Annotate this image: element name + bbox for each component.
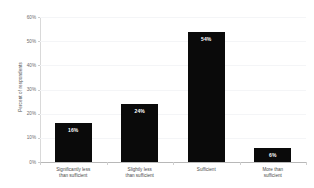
bar-value-label: 24%	[121, 108, 158, 114]
x-axis-tick-mark	[306, 162, 307, 165]
y-axis-tick-label: 60%	[18, 15, 36, 20]
y-axis-tick-label: 0%	[18, 160, 36, 165]
plot-area: 16%24%54%6%	[40, 17, 306, 162]
gridline	[40, 17, 306, 18]
y-axis-tick-label: 40%	[18, 63, 36, 68]
x-axis-tick-mark	[40, 162, 41, 165]
y-axis-tick-mark	[38, 90, 40, 91]
bar-value-label: 16%	[55, 127, 92, 133]
y-axis-tick-mark	[38, 138, 40, 139]
y-axis-tick-label: 20%	[18, 111, 36, 116]
x-axis-tick-mark	[240, 162, 241, 165]
y-axis-tick-mark	[38, 17, 40, 18]
y-axis-tick-label: 10%	[18, 135, 36, 140]
bar[interactable]: 54%	[188, 32, 225, 163]
y-axis-tick-mark	[38, 41, 40, 42]
bar[interactable]: 6%	[254, 148, 291, 163]
gridline	[40, 65, 306, 66]
bar-value-label: 6%	[254, 152, 291, 158]
bar[interactable]: 16%	[55, 123, 92, 162]
y-axis-tick-mark	[38, 114, 40, 115]
gridline	[40, 41, 306, 42]
gridline	[40, 114, 306, 115]
y-axis-tick-mark	[38, 65, 40, 66]
bar-chart: Percent of respondents 0%10%20%30%40%50%…	[0, 0, 314, 188]
x-axis-tick-mark	[173, 162, 174, 165]
x-axis-category-label: Significantly less than sufficient	[40, 167, 107, 178]
x-axis-category-label: Sufficient	[173, 167, 240, 173]
x-axis-tick-mark	[107, 162, 108, 165]
y-axis-tick-label: 50%	[18, 39, 36, 44]
gridline	[40, 90, 306, 91]
y-axis-tick-labels: 0%10%20%30%40%50%60%	[18, 0, 36, 188]
bar[interactable]: 24%	[121, 104, 158, 162]
x-axis-category-label: Slightly less than sufficient	[107, 167, 174, 178]
bar-value-label: 54%	[188, 36, 225, 42]
y-axis-tick-label: 30%	[18, 87, 36, 92]
x-axis-category-label: More than sufficient	[240, 167, 307, 178]
